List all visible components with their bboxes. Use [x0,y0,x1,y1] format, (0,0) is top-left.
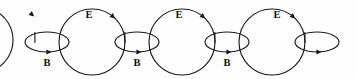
big-loop-arrowhead [110,13,116,18]
small-loop-arrowhead [136,49,141,54]
small-loop-arrowhead [46,49,51,54]
loop-shapes-layer [0,9,339,75]
small-loop-ellipse [25,32,69,52]
small-loop-label: B [133,57,140,68]
small-loop-arrowhead [226,49,231,54]
big-loop-arrowhead [290,13,296,18]
small-loop-label: B [223,57,230,68]
small-loop-label: B [43,57,50,68]
big-loop-arrowhead [29,11,35,16]
big-loop-label: E [175,9,182,20]
big-loop-label: E [85,9,92,20]
big-loop-arrowhead [200,13,206,18]
diagram-canvas: BEBEBE [0,0,358,79]
loop-labels-layer: BEBEBE [43,9,280,68]
small-loop-arrowhead [316,49,321,54]
small-loop-ellipse [115,32,159,52]
small-loop-ellipse [295,32,339,52]
chain-of-loops-diagram: BEBEBE [0,0,358,79]
big-loop-arc [0,11,13,69]
big-loop-label: E [273,9,280,20]
small-loop-ellipse [205,32,249,52]
